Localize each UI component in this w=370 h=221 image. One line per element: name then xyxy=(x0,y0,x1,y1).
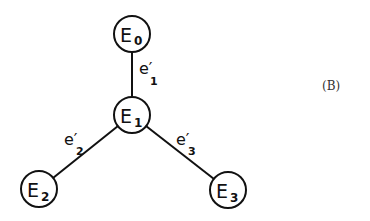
svg-text:E: E xyxy=(27,179,39,201)
svg-text:E: E xyxy=(120,105,132,127)
svg-text:E: E xyxy=(216,180,228,202)
edge-label-e1: e′ 1 xyxy=(139,59,158,88)
svg-text:1: 1 xyxy=(134,116,142,130)
svg-text:0: 0 xyxy=(134,34,142,48)
graph-diagram: e′ 1 e′ 2 e′ 3 E 0 E 1 E 2 E 3 xyxy=(0,0,370,221)
edge-label-e2: e′ 2 xyxy=(64,130,84,158)
node-e1: E 1 xyxy=(114,97,150,133)
node-e2: E 2 xyxy=(21,171,57,207)
svg-text:E: E xyxy=(120,24,132,46)
svg-text:3: 3 xyxy=(188,145,196,158)
node-e3: E 3 xyxy=(210,172,246,208)
svg-text:1: 1 xyxy=(150,75,158,88)
svg-text:3: 3 xyxy=(230,191,238,205)
figure-label: (B) xyxy=(322,79,340,93)
edge-e1-e2 xyxy=(53,126,118,178)
node-e0: E 0 xyxy=(114,16,150,52)
edge-label-e3: e′ 3 xyxy=(176,130,196,158)
svg-text:2: 2 xyxy=(41,190,49,204)
svg-text:2: 2 xyxy=(76,145,84,158)
